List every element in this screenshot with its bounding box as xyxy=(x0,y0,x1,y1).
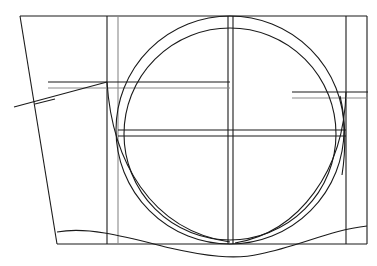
horizontal-guides xyxy=(48,82,368,136)
wavy-curve xyxy=(57,226,367,257)
tangent-curves xyxy=(107,82,346,243)
technical-drawing xyxy=(0,0,377,266)
leader-line xyxy=(14,82,107,107)
